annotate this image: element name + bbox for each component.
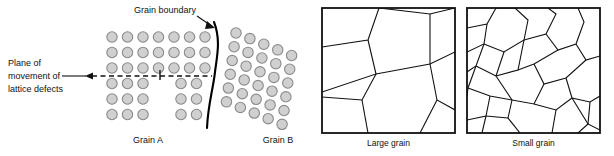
- atom-grain-b: [285, 64, 295, 74]
- atom-grain-a: [122, 47, 132, 57]
- atom-grain-b: [283, 78, 293, 88]
- atom-grain-a: [107, 47, 117, 57]
- grain-boundary-label: Grain boundary: [134, 5, 197, 15]
- atom-grain-a: [191, 94, 201, 104]
- atom-grain-b: [229, 42, 239, 52]
- atom-grain-b: [273, 45, 283, 55]
- atom-grain-b: [245, 33, 255, 43]
- atom-grain-b: [235, 102, 245, 112]
- atom-grain-a: [169, 47, 179, 57]
- atom-grain-b: [225, 69, 235, 79]
- atom-grain-b: [259, 39, 269, 49]
- atom-grain-a: [107, 109, 117, 119]
- atom-grain-b: [257, 53, 267, 63]
- atom-grain-a: [184, 47, 194, 57]
- atom-grain-b: [237, 88, 247, 98]
- atom-grain-b: [231, 28, 241, 38]
- atom-grain-a: [122, 63, 132, 73]
- small-grain-panel: Small grain: [467, 8, 600, 148]
- atom-grain-b: [251, 94, 261, 104]
- atom-grain-a: [122, 32, 132, 42]
- atom-grain-a: [200, 32, 210, 42]
- atom-grain-a: [184, 32, 194, 42]
- atom-grain-a: [122, 109, 132, 119]
- atom-grain-a: [153, 63, 163, 73]
- grain-b-atom-lattice: [221, 28, 297, 130]
- atom-grain-b: [241, 61, 251, 71]
- atom-grain-b: [249, 108, 259, 118]
- atom-grain-b: [269, 72, 279, 82]
- atom-grain-a: [200, 63, 210, 73]
- atom-grain-b: [277, 119, 287, 129]
- atom-grain-a: [138, 78, 148, 88]
- atom-grain-b: [221, 97, 231, 107]
- atom-grain-a: [122, 94, 132, 104]
- atom-grain-a: [122, 78, 132, 88]
- plane-label-line-3: lattice defects: [8, 84, 64, 94]
- large-grain-panel-caption: Large grain: [367, 138, 410, 148]
- atom-grain-a: [153, 32, 163, 42]
- atom-grain-a: [169, 63, 179, 73]
- atom-grain-b: [253, 80, 263, 90]
- atom-grain-b: [263, 114, 273, 124]
- atom-grain-a: [191, 78, 201, 88]
- atom-grain-b: [243, 47, 253, 57]
- atom-grain-a: [138, 94, 148, 104]
- atom-grain-b: [265, 100, 275, 110]
- grain-structure-figure: Grain boundary Plane of movement of latt…: [0, 0, 614, 156]
- atom-grain-b: [227, 55, 237, 65]
- atom-grain-a: [138, 32, 148, 42]
- atom-grain-a: [138, 63, 148, 73]
- plane-label-line-1: Plane of: [8, 58, 42, 68]
- atom-grain-a: [138, 47, 148, 57]
- atom-grain-a: [191, 109, 201, 119]
- atom-grain-b: [223, 83, 233, 93]
- atom-grain-b: [239, 75, 249, 85]
- atom-grain-a: [107, 63, 117, 73]
- atom-grain-a: [184, 63, 194, 73]
- atom-grain-a: [107, 78, 117, 88]
- slip-plane-arrowhead: [85, 72, 93, 79]
- atom-grain-a: [176, 78, 186, 88]
- figure-root: Grain boundary Plane of movement of latt…: [0, 0, 614, 156]
- atom-grain-b: [271, 58, 281, 68]
- small-grain-panel-caption: Small grain: [512, 138, 555, 148]
- atom-grain-b: [255, 67, 265, 77]
- atom-grain-b: [279, 105, 289, 115]
- grain-b-label: Grain B: [263, 135, 294, 145]
- atom-grain-b: [281, 92, 291, 102]
- grain-size-panels: Large grainSmall grain: [322, 8, 600, 148]
- atom-grain-a: [176, 94, 186, 104]
- atom-grain-b: [286, 50, 296, 60]
- large-grain-panel-border: [322, 8, 455, 133]
- atom-grain-a: [138, 109, 148, 119]
- atom-grain-a: [176, 109, 186, 119]
- plane-label-line-2: movement of: [8, 71, 61, 81]
- atom-grain-a: [107, 94, 117, 104]
- large-grain-panel: Large grain: [322, 8, 455, 148]
- atom-grain-a: [200, 47, 210, 57]
- grain-a-label: Grain A: [133, 135, 163, 145]
- atom-grain-a: [153, 47, 163, 57]
- atom-grain-a: [107, 32, 117, 42]
- atom-grain-a: [169, 32, 179, 42]
- atom-grain-b: [267, 86, 277, 96]
